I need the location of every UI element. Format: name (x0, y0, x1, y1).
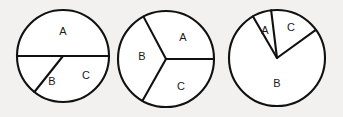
slice-label-c: C (177, 80, 185, 92)
slice-label-a: A (59, 25, 67, 37)
slice-label-a: A (261, 24, 269, 36)
pie-chart-1: ABC (17, 10, 109, 102)
slice-label-b: B (273, 77, 281, 89)
pie-chart-3: ABC (229, 10, 325, 106)
pie-chart-2: ABC (118, 11, 214, 107)
slice-label-a: A (179, 31, 187, 43)
slice-label-c: C (82, 69, 90, 81)
pie-chart-canvas: ABCABCABC (0, 0, 343, 117)
slice-label-b: B (48, 75, 56, 87)
pie-chart-figure: ABCABCABC (0, 0, 343, 117)
slice-label-c: C (287, 21, 295, 33)
slice-label-b: B (138, 50, 146, 62)
